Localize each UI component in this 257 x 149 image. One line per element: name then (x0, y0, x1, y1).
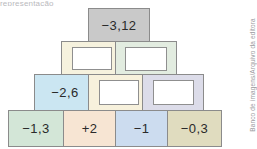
pyramid-block-value: +2 (82, 121, 98, 136)
pyramid-block-value: −0,3 (181, 121, 208, 136)
pyramid-block-r3c3 (142, 74, 204, 111)
pyramid-block-r4c4: −0,3 (167, 110, 222, 147)
answer-box[interactable] (125, 47, 167, 71)
pyramid-block-r4c3: −1 (115, 110, 168, 147)
addition-pyramid-diagram: −3,12 −2,6 −1,3 +2 −1 −0,3 (0, 0, 228, 149)
pyramid-block-r1c1: −3,12 (88, 8, 150, 43)
pyramid-block-value: −2,6 (51, 85, 78, 100)
pyramid-block-r4c2: +2 (63, 110, 116, 147)
image-credit: Banco de imagens/Arquivo da editora (250, 18, 257, 132)
pyramid-block-r2c2 (115, 41, 177, 76)
answer-box[interactable] (99, 80, 139, 105)
answer-box[interactable] (153, 80, 194, 105)
pyramid-block-r3c2 (88, 74, 150, 111)
pyramid-block-r2c1 (61, 41, 123, 76)
pyramid-block-r3c1: −2,6 (34, 74, 96, 111)
pyramid-block-value: −3,12 (102, 18, 137, 33)
pyramid-block-r4c1: −1,3 (8, 110, 64, 147)
answer-box[interactable] (72, 47, 112, 70)
pyramid-block-value: −1 (134, 121, 150, 136)
pyramid-block-value: −1,3 (22, 121, 49, 136)
